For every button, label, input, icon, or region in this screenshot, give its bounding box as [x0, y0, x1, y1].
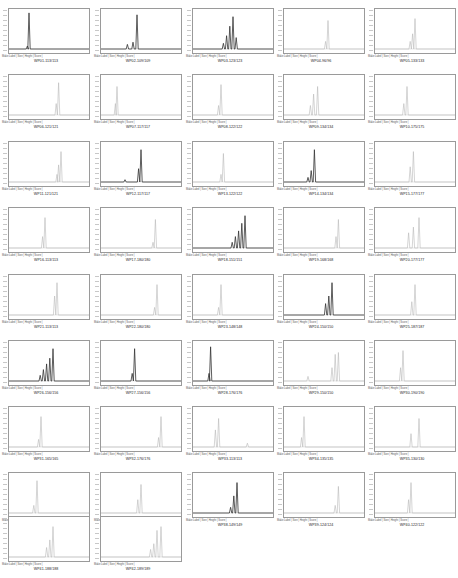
panel-caption: WP01-113/113	[2, 59, 90, 63]
panel-caption: WP25-187/187	[368, 325, 456, 329]
panel-caption: WP27-156/156	[94, 391, 182, 395]
panel-legend: Make Label | Size | Height | Score |	[368, 55, 408, 58]
trace-panel: Make Label | Size | Height | Score |WP08…	[186, 70, 274, 136]
trace-panel: Make Label | Size | Height | Score |WP05…	[368, 4, 456, 70]
panel-caption: WP02-109/109	[94, 59, 182, 63]
panel-legend: Make Label | Size | Height | Score |	[94, 188, 134, 191]
trace-plot	[100, 8, 182, 54]
panel-caption: WP40-122/122	[368, 523, 456, 527]
panel-legend: Make Label | Size | Height | Score |	[368, 188, 408, 191]
panel-caption: WP18-151/151	[186, 258, 274, 262]
trace-plot	[100, 516, 182, 562]
trace-plot	[100, 274, 182, 320]
trace-panel: Make Label | Size | Height | Score |WP09…	[277, 70, 365, 136]
trace-plot	[100, 340, 182, 386]
trace-panel: Make Label | Size | Height | Score |WP03…	[186, 4, 274, 70]
trace-line	[101, 208, 181, 252]
panel-caption: WP28-176/176	[186, 391, 274, 395]
panel-legend: Make Label | Size | Height | Score |	[277, 453, 317, 456]
panel-legend: Make Label | Size | Height | Score |	[186, 387, 226, 390]
trace-line	[9, 142, 89, 186]
trace-line	[284, 208, 364, 252]
trace-plot	[8, 207, 90, 253]
trace-line	[193, 75, 273, 119]
panel-legend: Make Label | Size | Height | Score |	[186, 453, 226, 456]
trace-plot	[192, 207, 274, 253]
panel-caption: WP11-121/121	[2, 192, 90, 196]
panel-caption: WP38-149/149	[186, 523, 274, 527]
trace-plot	[374, 8, 456, 54]
trace-panel: Make Label | Size | Height | Score |WP13…	[186, 137, 274, 203]
trace-plot	[283, 8, 365, 54]
panel-legend: Make Label | Size | Height | Score |	[186, 188, 226, 191]
trace-line	[375, 275, 455, 319]
trace-panel: Make Label | Size | Height | Score |WP10…	[368, 70, 456, 136]
panel-caption: WP15-177/177	[368, 192, 456, 196]
panel-caption: WP13-122/122	[186, 192, 274, 196]
panel-caption: WP04-96/96	[277, 59, 365, 63]
trace-plot	[100, 141, 182, 187]
panel-legend: Make Label | Size | Height | Score |	[368, 121, 408, 124]
panel-caption: WP23-148/148	[186, 325, 274, 329]
panel-legend: Make Label | Size | Height | Score |	[277, 121, 317, 124]
trace-plot	[374, 472, 456, 518]
trace-panel: Make Label | Size | Height | Score |WP29…	[277, 336, 365, 402]
trace-panel: Make Label | Size | Height | Score |WP12…	[94, 137, 182, 203]
trace-plot	[8, 274, 90, 320]
trace-line	[9, 9, 89, 53]
trace-plot	[283, 74, 365, 120]
panel-legend: Make Label | Size | Height | Score |	[186, 519, 226, 522]
trace-panel: Make Label | Size | Height | Score |WP33…	[186, 402, 274, 468]
panel-caption: WP22-180/180	[94, 325, 182, 329]
trace-plot	[8, 516, 90, 562]
panel-legend: Make Label | Size | Height | Score |	[368, 519, 408, 522]
trace-plot	[100, 406, 182, 452]
trace-plot	[374, 207, 456, 253]
panel-caption: WP14-134/134	[277, 192, 365, 196]
panel-caption: WP34-135/135	[277, 457, 365, 461]
panel-caption: WP08-122/122	[186, 125, 274, 129]
trace-panel: Make Label | Size | Height | Score |WP26…	[2, 336, 90, 402]
panel-legend: Make Label | Size | Height | Score |	[368, 321, 408, 324]
trace-plot	[192, 74, 274, 120]
trace-plot	[192, 274, 274, 320]
trace-line	[193, 208, 273, 252]
trace-plot	[192, 340, 274, 386]
trace-plot	[100, 74, 182, 120]
panel-legend: Make Label | Size | Height | Score |	[2, 453, 42, 456]
panel-legend: Make Label | Size | Height | Score |	[2, 188, 42, 191]
trace-line	[284, 341, 364, 385]
trace-line	[375, 9, 455, 53]
trace-panel: Make Label | Size | Height | Score |WP11…	[2, 137, 90, 203]
trace-panel: Make Label | Size | Height | Score |WP34…	[277, 402, 365, 468]
trace-line	[101, 75, 181, 119]
trace-line	[193, 9, 273, 53]
trace-line	[193, 407, 273, 451]
panel-legend: Make Label | Size | Height | Score |	[2, 55, 42, 58]
trace-panel: Make Label | Size | Height | Score |WP40…	[368, 468, 456, 534]
panel-legend: Make Label | Size | Height | Score |	[2, 387, 42, 390]
trace-panel: Make Label | Size | Height | Score |WP21…	[2, 270, 90, 336]
trace-panel: Make Label | Size | Height | Score |WP27…	[94, 336, 182, 402]
trace-line	[9, 517, 89, 561]
panel-legend: Make Label | Size | Height | Score |	[94, 55, 134, 58]
panel-legend: Make Label | Size | Height | Score |	[94, 387, 134, 390]
panel-legend: Make Label | Size | Height | Score |	[2, 563, 42, 566]
panel-caption: WP24-150/150	[277, 325, 365, 329]
trace-line	[101, 142, 181, 186]
panel-caption: WP39-124/124	[277, 523, 365, 527]
trace-line	[284, 142, 364, 186]
panel-caption: WP05-133/133	[368, 59, 456, 63]
trace-line	[284, 275, 364, 319]
panel-legend: Make Label | Size | Height | Score |	[186, 121, 226, 124]
panel-caption: WP03-123/123	[186, 59, 274, 63]
panel-caption: WP21-113/113	[2, 325, 90, 329]
electropherogram-grid: Make Label | Size | Height | Score |WP01…	[0, 0, 458, 578]
trace-line	[9, 208, 89, 252]
trace-plot	[8, 406, 90, 452]
trace-line	[9, 407, 89, 451]
trace-panel: Make Label | Size | Height | Score |WP18…	[186, 203, 274, 269]
trace-plot	[8, 74, 90, 120]
panel-legend: Make Label | Size | Height | Score |	[277, 321, 317, 324]
trace-line	[375, 208, 455, 252]
